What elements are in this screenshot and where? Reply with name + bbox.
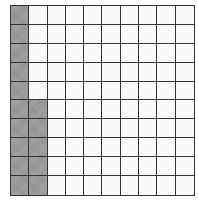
grid-cell <box>176 6 194 25</box>
grid-cell <box>48 63 66 82</box>
grid-cell <box>66 176 84 195</box>
grid-cell <box>139 25 157 44</box>
grid-cell-shaded <box>29 119 47 138</box>
grid-cell <box>157 176 175 195</box>
grid-cell-shaded <box>11 100 29 119</box>
grid-cell <box>121 82 139 101</box>
grid-cell <box>29 6 47 25</box>
grid-cell <box>29 63 47 82</box>
grid-cell-shaded <box>11 176 29 195</box>
grid-cell <box>102 44 120 63</box>
grid-cell <box>66 44 84 63</box>
grid-cell <box>66 6 84 25</box>
grid-cell <box>48 100 66 119</box>
grid-cell <box>121 100 139 119</box>
grid-cell <box>176 25 194 44</box>
grid-cell <box>139 100 157 119</box>
grid-cell <box>176 176 194 195</box>
grid-cell-shaded <box>11 63 29 82</box>
grid-cell <box>66 157 84 176</box>
grid-cell <box>29 44 47 63</box>
grid-cell <box>139 44 157 63</box>
grid-cell <box>176 119 194 138</box>
grid-cell <box>102 63 120 82</box>
grid-cell <box>48 138 66 157</box>
grid-cell-shaded <box>11 44 29 63</box>
grid-cell <box>121 138 139 157</box>
grid-cell <box>102 82 120 101</box>
grid-cell <box>176 138 194 157</box>
grid-cell <box>102 6 120 25</box>
grid-cell <box>66 25 84 44</box>
grid-cell <box>121 63 139 82</box>
grid-cell <box>176 44 194 63</box>
grid-cell <box>139 82 157 101</box>
grid-cell <box>29 82 47 101</box>
grid-cell <box>157 82 175 101</box>
grid-cell <box>139 6 157 25</box>
grid-cell-shaded <box>11 119 29 138</box>
grid-cell <box>176 63 194 82</box>
grid-cell-shaded <box>11 6 29 25</box>
grid-cell <box>66 63 84 82</box>
grid-cell <box>139 119 157 138</box>
grid-cell <box>139 63 157 82</box>
grid-cell <box>84 119 102 138</box>
grid-cell <box>84 157 102 176</box>
grid-cell-shaded <box>29 157 47 176</box>
grid-cell-shaded <box>11 82 29 101</box>
grid-cell <box>176 100 194 119</box>
grid-cell-shaded <box>11 157 29 176</box>
grid-cell <box>48 44 66 63</box>
grid-cell <box>84 82 102 101</box>
grid-cell-shaded <box>11 25 29 44</box>
grid-cell <box>157 44 175 63</box>
grid-cell <box>176 82 194 101</box>
grid-cell <box>66 82 84 101</box>
grid-cell <box>139 176 157 195</box>
hundred-grid <box>10 5 195 196</box>
grid-cell-shaded <box>29 100 47 119</box>
grid-cell <box>66 119 84 138</box>
grid-cell <box>121 44 139 63</box>
grid-cell <box>157 25 175 44</box>
grid-cell <box>84 6 102 25</box>
grid-cell <box>157 119 175 138</box>
grid-cell <box>84 63 102 82</box>
grid-cell <box>84 176 102 195</box>
grid-cell <box>48 119 66 138</box>
grid-cell <box>48 6 66 25</box>
grid-cell <box>29 25 47 44</box>
grid-cell <box>139 138 157 157</box>
grid-cell <box>84 100 102 119</box>
grid-cell <box>121 119 139 138</box>
grid-cell <box>139 157 157 176</box>
grid-cell <box>48 176 66 195</box>
grid-cell <box>157 138 175 157</box>
grid-cell <box>157 6 175 25</box>
grid-cell <box>84 25 102 44</box>
grid-cell <box>48 157 66 176</box>
grid-cell <box>102 119 120 138</box>
grid-cell <box>157 100 175 119</box>
grid-cell <box>121 6 139 25</box>
grid-cell <box>121 176 139 195</box>
grid-cell <box>157 63 175 82</box>
grid-cell-shaded <box>11 138 29 157</box>
grid-cell <box>48 82 66 101</box>
grid-cell <box>84 44 102 63</box>
grid-cell <box>121 25 139 44</box>
grid-cell <box>48 25 66 44</box>
grid-cell <box>121 157 139 176</box>
grid-cell <box>66 100 84 119</box>
grid-cell <box>102 157 120 176</box>
grid-cell <box>102 176 120 195</box>
grid-cell-shaded <box>29 176 47 195</box>
grid-cell <box>66 138 84 157</box>
grid-cell <box>84 138 102 157</box>
grid-cell <box>102 25 120 44</box>
grid-cell-shaded <box>29 138 47 157</box>
grid-cell <box>102 100 120 119</box>
grid-cell <box>157 157 175 176</box>
grid-cell <box>102 138 120 157</box>
